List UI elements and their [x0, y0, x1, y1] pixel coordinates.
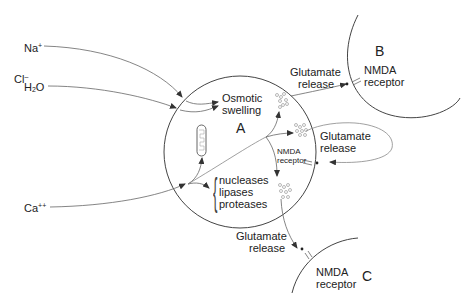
- branch-to-lower-vesicles-arrow: [266, 137, 277, 176]
- enzyme-lipases: lipases: [219, 186, 253, 198]
- glutamate-c-dot: [301, 248, 304, 251]
- vesicles-lower: [279, 184, 292, 199]
- enzymes-brace: {: [213, 173, 217, 211]
- ca-to-enzymes-arrow: [188, 183, 209, 188]
- cell-b-label: B: [375, 45, 384, 57]
- release-to-c-line2: release: [249, 242, 285, 254]
- cell-a-label: A: [236, 122, 245, 134]
- release-to-c-line1: Glutamate: [236, 230, 287, 242]
- ca-label: Ca++: [24, 200, 46, 214]
- na-to-swelling-arrow: [186, 101, 218, 104]
- receptor-b-line2: receptor: [364, 76, 404, 88]
- osmotic-label-line2: swelling: [222, 104, 261, 116]
- internal-receptor-line1: NMDA: [277, 147, 301, 156]
- receptor-c-line2: receptor: [316, 278, 356, 290]
- autocrine-release-line1: Glutamate: [320, 130, 371, 142]
- receptor-c-mark: [305, 251, 312, 259]
- mitochondrion: [197, 125, 206, 156]
- vesicles-right: [295, 124, 308, 137]
- internal-receptor-line2: receptor: [277, 156, 306, 165]
- glutamate-b-dot: [346, 83, 349, 86]
- enzyme-proteases: proteases: [219, 198, 267, 210]
- diagram-canvas: [0, 0, 472, 306]
- cell-c-label: C: [362, 270, 372, 282]
- na-label: Na+: [24, 40, 42, 54]
- mitochondrion-cristae: [199, 130, 204, 150]
- receptor-b-line1: NMDA: [364, 64, 396, 76]
- ca-influx-arrow: [50, 184, 185, 207]
- autocrine-release-line2: release: [320, 142, 356, 154]
- h2o-to-swelling-arrow: [180, 106, 218, 112]
- autocrine-dot: [316, 162, 319, 165]
- vesicles-upper: [276, 93, 289, 109]
- na-arrow: [44, 46, 182, 97]
- receptor-c-line1: NMDA: [316, 266, 348, 278]
- enzyme-nucleases: nucleases: [219, 174, 269, 186]
- osmotic-label-line1: Osmotic: [222, 92, 262, 104]
- release-to-b-line2: release: [298, 78, 334, 90]
- branch-to-upper-vesicles-arrow: [266, 112, 279, 137]
- release-to-b-line1: Glutamate: [290, 66, 341, 78]
- h2o-arrow: [48, 86, 176, 108]
- h2o-label: H2O: [24, 81, 44, 96]
